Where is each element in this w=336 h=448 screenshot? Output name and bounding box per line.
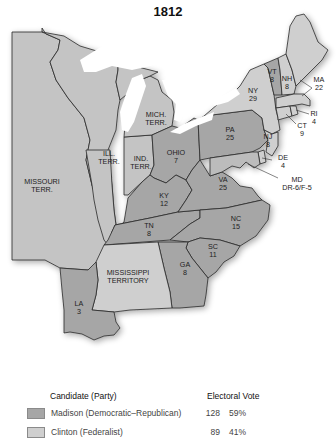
label-va: VA25 (218, 175, 227, 192)
madison-swatch (27, 408, 45, 419)
label-mississippi-territory: MISSISSIPPITERRITORY (107, 268, 150, 285)
label-nc: NC15 (231, 214, 241, 231)
legend-label: Madison (Democratic–Republican) (51, 408, 181, 418)
legend-vote-header: Electoral Vote (207, 391, 259, 401)
label-sc: SC11 (208, 242, 218, 259)
clinton-votes: 89 (204, 427, 220, 437)
electoral-map: VT8 NH8 MA22 NY29 RI4 CT9 NJ8 PA25 DE4 M… (0, 0, 336, 380)
legend-row-clinton: Clinton (Federalist) (27, 426, 123, 438)
label-ma: MA22 (314, 75, 325, 92)
label-ct: CT9 (297, 121, 307, 138)
label-ny: NY29 (248, 86, 258, 103)
label-de: DE4 (278, 153, 288, 170)
lake-superior (80, 34, 184, 72)
legend-label: Clinton (Federalist) (51, 427, 123, 437)
madison-votes: 128 (204, 408, 220, 418)
clinton-swatch (27, 427, 45, 438)
legend-candidate-header: Candidate (Party) (50, 391, 117, 401)
label-mich-terr: MICH.TERR. (145, 110, 167, 127)
clinton-percent: 41% (228, 427, 246, 437)
label-ky: KY12 (159, 191, 169, 208)
legend-row-madison: Madison (Democratic–Republican) (27, 407, 181, 419)
madison-percent: 59% (228, 408, 246, 418)
label-ri: RI4 (310, 109, 317, 126)
label-md: MDDR-6/F-5 (282, 175, 312, 192)
label-pa: PA25 (225, 125, 234, 142)
